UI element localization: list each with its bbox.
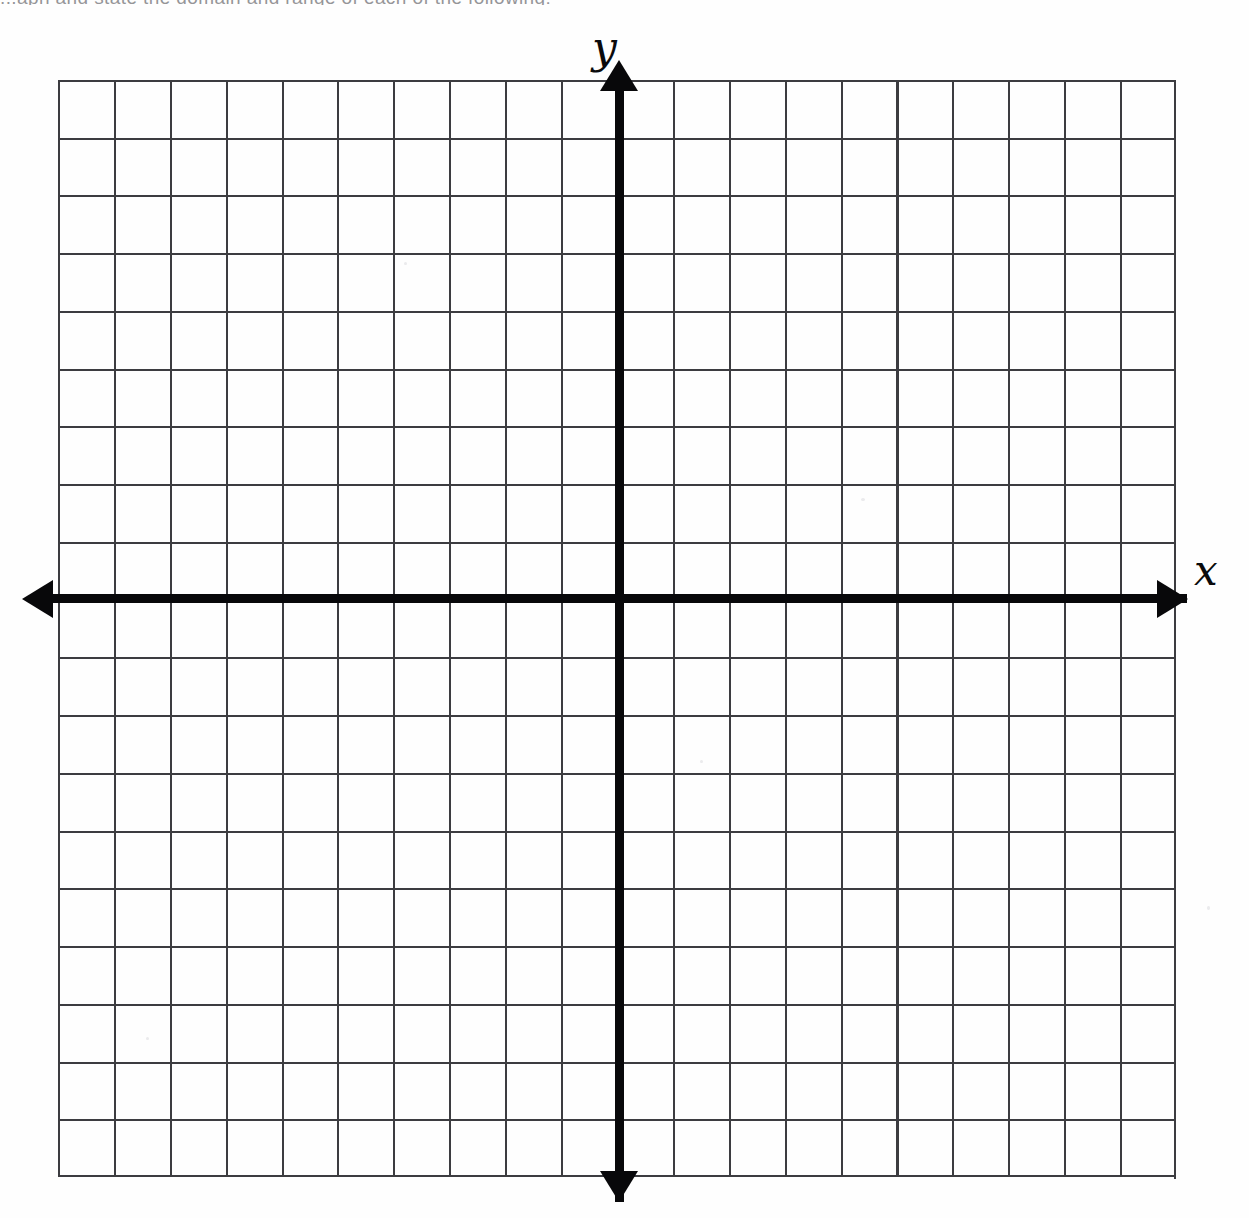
x-axis-line	[35, 594, 1187, 603]
x-axis-right-arrow-icon	[1157, 580, 1188, 618]
x-axis-left-arrow-icon	[22, 580, 53, 618]
x-axis-label: x	[1194, 550, 1218, 592]
y-axis-down-arrow-icon	[600, 1171, 638, 1202]
y-axis-label: y	[592, 26, 617, 70]
scan-speckle	[861, 498, 865, 501]
scan-speckle	[700, 760, 703, 763]
y-axis-line	[615, 70, 624, 1202]
scan-speckle	[146, 1037, 149, 1040]
coordinate-graph: y x	[0, 0, 1249, 1218]
scan-speckle	[1207, 906, 1210, 910]
grid-right-border	[1174, 80, 1176, 1179]
scan-speckle	[404, 262, 407, 265]
